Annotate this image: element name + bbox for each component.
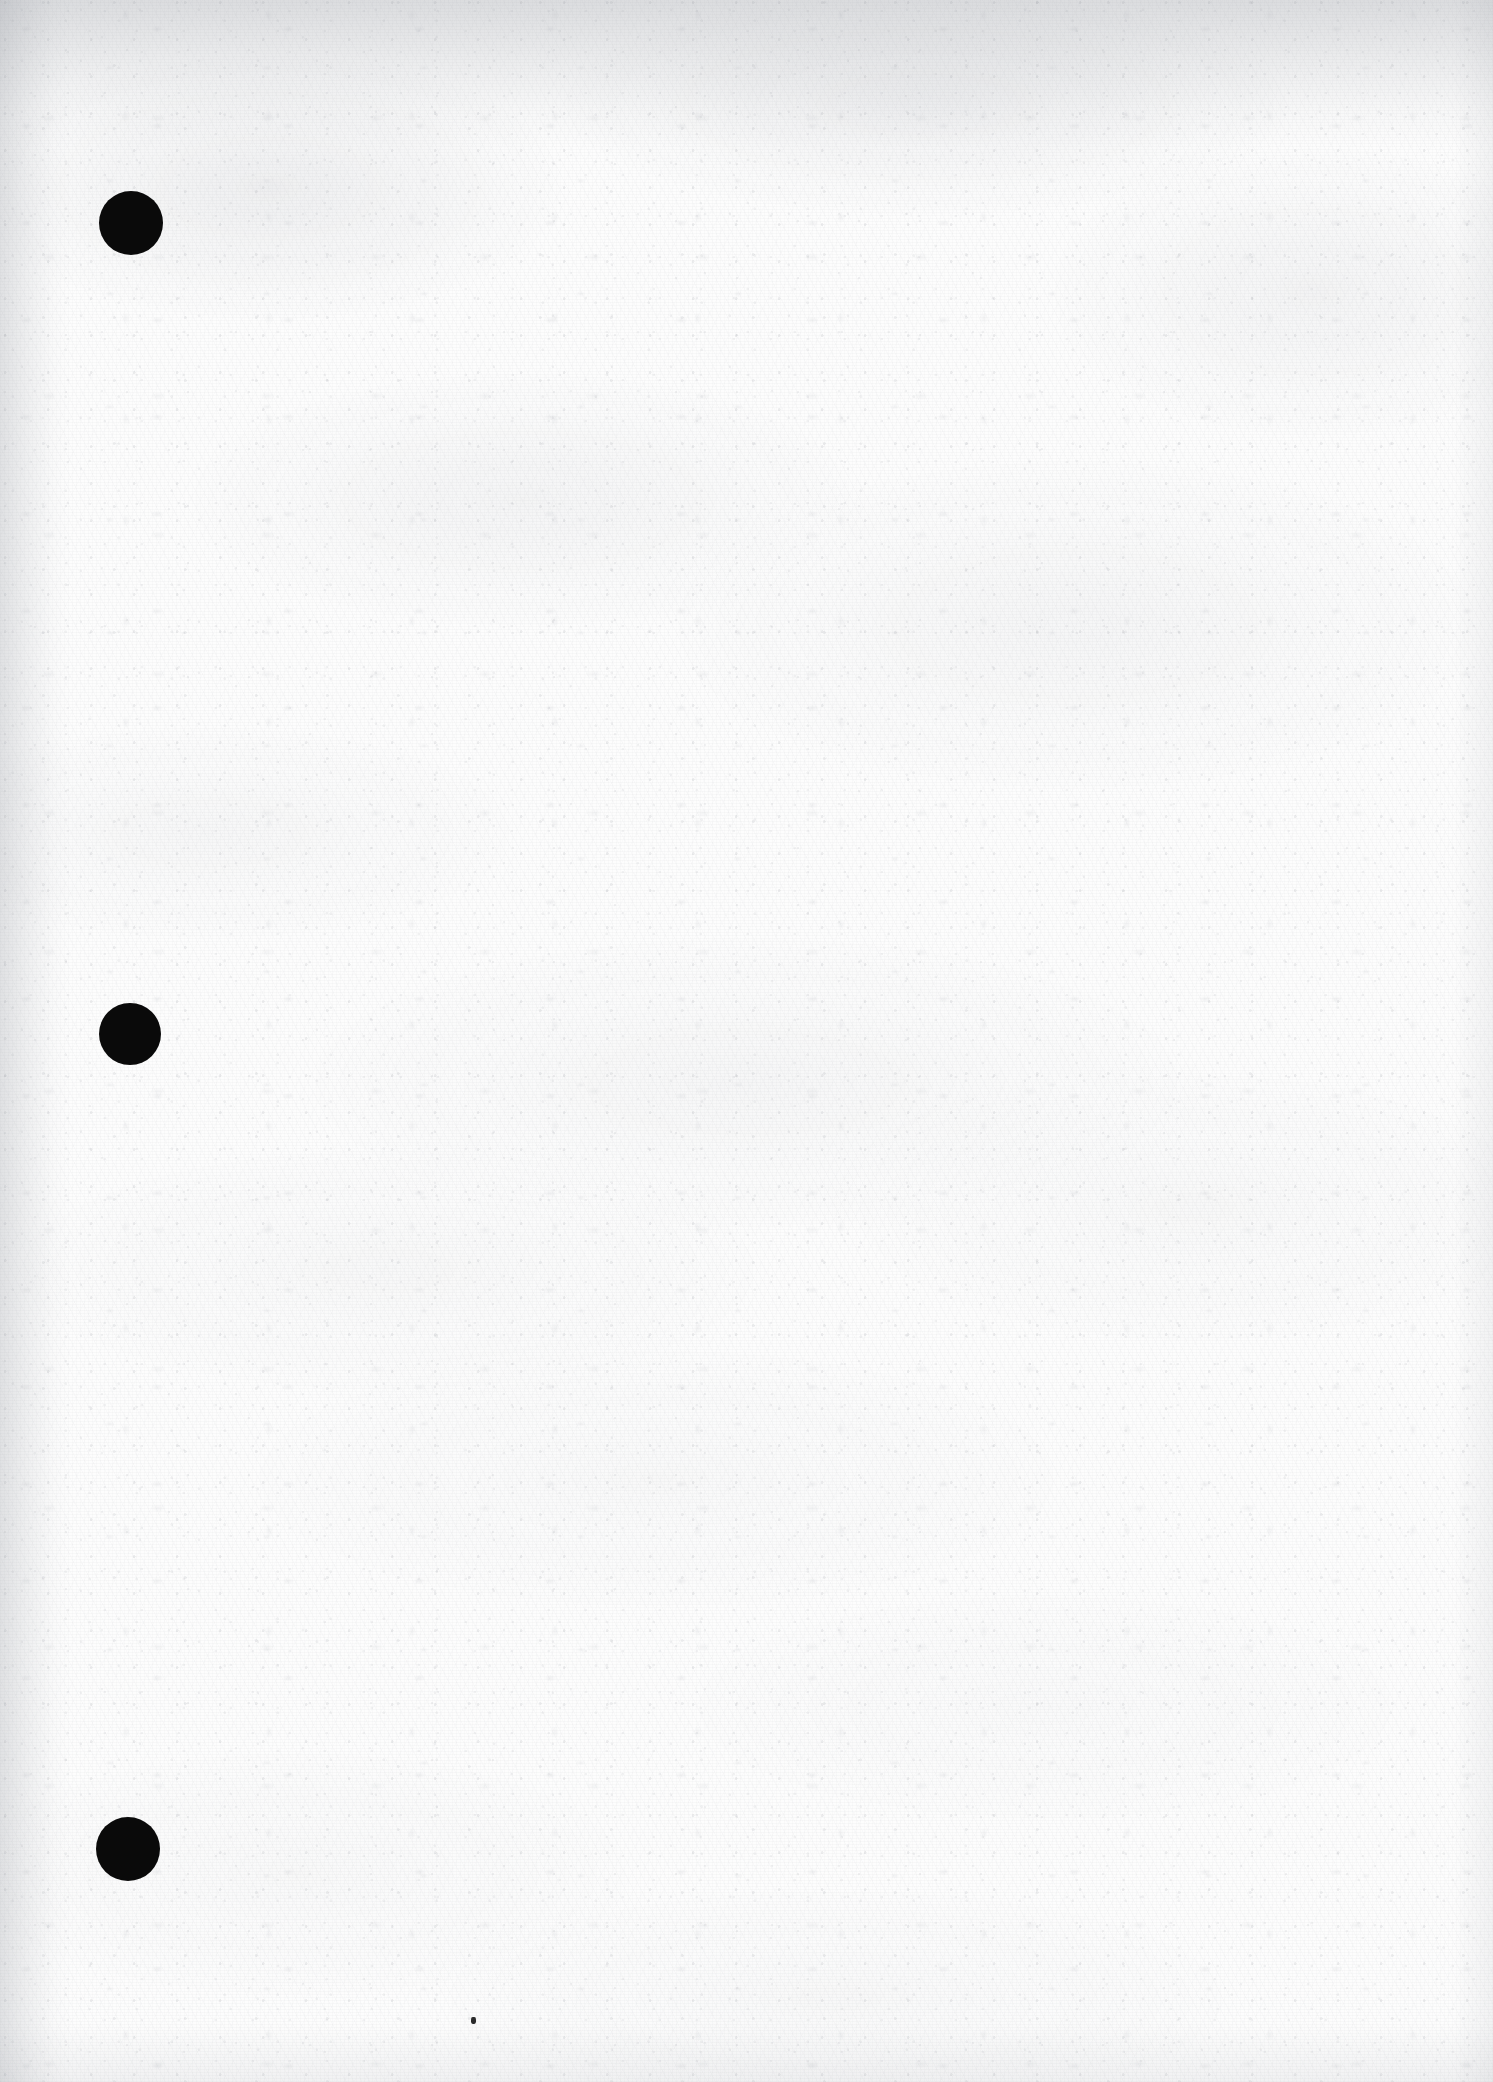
scan-edge-shadow-left: [0, 0, 70, 2082]
punch-hole-top: [99, 191, 163, 255]
punch-hole-bottom: [96, 1817, 160, 1881]
scanned-page: [0, 0, 1493, 2082]
scan-edge-shadow-right: [1453, 0, 1493, 2082]
paper-speckle-layer: [0, 0, 1493, 2082]
punch-hole-middle: [99, 1003, 161, 1065]
paper-mottling-layer: [0, 0, 1493, 2082]
paper-fibre-layer: [0, 0, 1493, 2082]
scan-edge-shadow-top: [0, 0, 1493, 150]
ink-speck-bottom: [471, 2017, 476, 2024]
scan-edge-shadow-bottom: [0, 2022, 1493, 2082]
paper-blotch-layer: [0, 0, 1493, 2082]
